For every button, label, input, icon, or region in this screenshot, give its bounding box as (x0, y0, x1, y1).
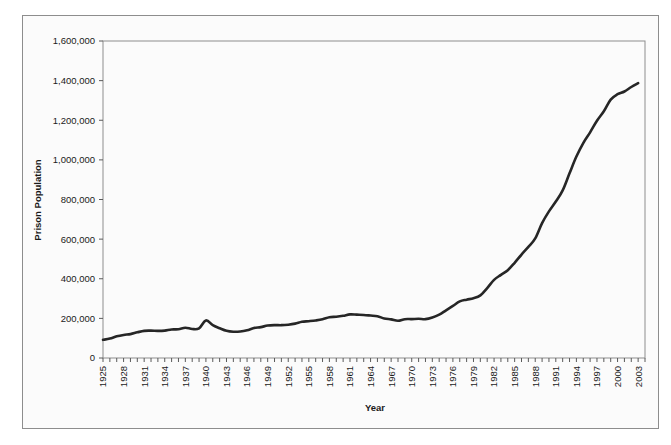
y-axis-tick-label: 400,000 (61, 273, 95, 284)
x-axis-tick-label: 1973 (427, 366, 438, 387)
y-axis-tick-label: 200,000 (61, 313, 95, 324)
x-axis-tick-label: 1958 (324, 366, 335, 387)
x-axis-tick-label: 1934 (159, 366, 170, 387)
chart-figure: 0200,000400,000600,000800,0001,000,0001,… (0, 0, 671, 445)
y-axis-tick-label: 1,200,000 (53, 115, 95, 126)
y-axis-tick-label: 1,000,000 (53, 154, 95, 165)
x-axis-tick-label: 1937 (180, 366, 191, 387)
x-axis-tick-label: 1931 (139, 366, 150, 387)
plot-area-background (103, 41, 645, 358)
x-axis-tick-label: 1982 (488, 366, 499, 387)
x-axis-tick-label: 1979 (468, 366, 479, 387)
x-axis-tick-label: 1991 (550, 366, 561, 387)
x-axis-tick-label: 2003 (633, 366, 644, 387)
x-axis-tick-label: 1988 (530, 366, 541, 387)
y-axis-tick-label: 600,000 (61, 234, 95, 245)
y-axis-tick-label: 1,400,000 (53, 75, 95, 86)
x-axis-tick-label: 1952 (283, 366, 294, 387)
x-axis-ticks (103, 358, 645, 362)
line-chart: 0200,000400,000600,000800,0001,000,0001,… (0, 0, 671, 445)
x-axis-title: Year (365, 402, 385, 413)
x-axis-tick-label: 1994 (571, 366, 582, 387)
x-axis-tick-label: 1946 (241, 366, 252, 387)
y-axis-tick-label: 800,000 (61, 194, 95, 205)
x-axis-tick-label: 1925 (97, 366, 108, 387)
y-axis: 0200,000400,000600,000800,0001,000,0001,… (53, 35, 103, 363)
x-axis-tick-label: 1964 (365, 366, 376, 387)
x-axis-tick-label: 1967 (386, 366, 397, 387)
x-axis-tick-label: 1943 (221, 366, 232, 387)
y-axis-tick-label: 1,600,000 (53, 35, 95, 46)
x-axis-tick-label: 1970 (406, 366, 417, 387)
x-axis-labels: 1925192819311934193719401943194619491952… (97, 366, 643, 387)
x-axis-tick-label: 1955 (303, 366, 314, 387)
x-axis-tick-label: 1961 (344, 366, 355, 387)
x-axis-tick-label: 1985 (509, 366, 520, 387)
x-axis-tick-label: 1997 (591, 366, 602, 387)
x-axis-tick-label: 1940 (200, 366, 211, 387)
x-axis-tick-label: 1949 (262, 366, 273, 387)
x-axis-tick-label: 1928 (118, 366, 129, 387)
x-axis-tick-label: 1976 (447, 366, 458, 387)
y-axis-tick-label: 0 (90, 352, 95, 363)
x-axis-tick-label: 2000 (612, 366, 623, 387)
y-axis-title: Prison Population (32, 159, 43, 240)
